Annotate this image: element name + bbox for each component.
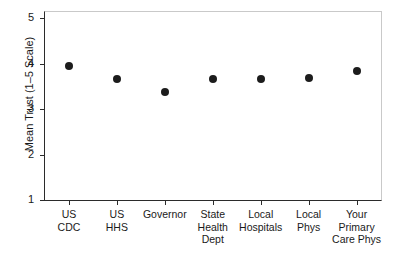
x-tick-label-line: Dept	[181, 233, 245, 246]
data-point	[305, 74, 313, 82]
data-point	[161, 88, 169, 96]
x-tick-label-line: Primary	[325, 221, 389, 234]
x-tick-mark	[213, 201, 214, 205]
x-tick-mark	[357, 201, 358, 205]
data-point	[209, 75, 217, 83]
x-tick-label-line: HHS	[85, 221, 149, 234]
chart-container: Mean Trust (1–5 Scale) 12345 USCDCUSHHSG…	[0, 0, 396, 262]
y-tick-label: 3	[12, 103, 34, 114]
data-point	[257, 75, 265, 83]
plot-area	[44, 11, 382, 201]
x-tick-label-line: Care Phys	[325, 233, 389, 246]
x-tick-mark	[165, 201, 166, 205]
x-tick-mark	[117, 201, 118, 205]
data-point	[113, 75, 121, 83]
y-tick-label: 1	[12, 194, 34, 205]
y-tick-label: 2	[12, 149, 34, 160]
y-tick-label: 5	[12, 12, 34, 23]
x-tick-label: YourPrimaryCare Phys	[325, 208, 389, 246]
x-tick-mark	[309, 201, 310, 205]
data-point	[353, 67, 361, 75]
x-tick-mark	[69, 201, 70, 205]
data-point	[65, 62, 73, 70]
x-tick-mark	[261, 201, 262, 205]
y-tick-label: 4	[12, 58, 34, 69]
x-tick-label-line: Your	[325, 208, 389, 221]
